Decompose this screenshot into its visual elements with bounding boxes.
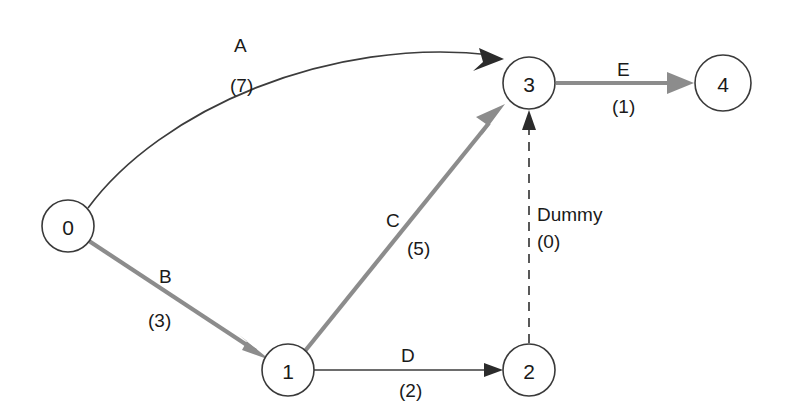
edge-A-labels: A (7) xyxy=(230,35,253,96)
node-4[interactable]: 4 xyxy=(695,55,751,111)
edge-D-arrowhead xyxy=(484,363,503,377)
edge-B-line xyxy=(89,241,256,351)
edge-C[interactable] xyxy=(305,104,505,351)
network-diagram: 0 1 2 3 4 A (7) B (3) C (5) xyxy=(0,0,788,420)
node-3[interactable]: 3 xyxy=(503,57,555,109)
edge-A-arrowhead xyxy=(473,48,504,71)
edge-A-duration: (7) xyxy=(230,75,253,96)
edge-A-line xyxy=(88,52,492,208)
edge-Dummy[interactable] xyxy=(522,110,536,343)
edge-D-labels: D (2) xyxy=(399,345,422,401)
edge-D-duration: (2) xyxy=(399,380,422,401)
edge-B-labels: B (3) xyxy=(148,266,172,331)
edge-Dummy-name: Dummy xyxy=(537,204,603,225)
edge-Dummy-arrowhead xyxy=(522,110,536,130)
node-0-label: 0 xyxy=(62,216,74,239)
edge-B-name: B xyxy=(159,266,172,287)
edge-A-name: A xyxy=(234,35,247,56)
edge-Dummy-labels: Dummy (0) xyxy=(537,204,603,252)
edge-E-labels: E (1) xyxy=(612,59,635,117)
edge-E-arrowhead xyxy=(667,72,694,94)
edge-C-name: C xyxy=(386,210,400,231)
edge-Dummy-duration: (0) xyxy=(537,231,560,252)
diagram-canvas: 0 1 2 3 4 A (7) B (3) C (5) xyxy=(0,0,788,420)
node-2[interactable]: 2 xyxy=(503,344,555,396)
node-0[interactable]: 0 xyxy=(42,200,94,252)
edge-D-name: D xyxy=(401,345,415,366)
node-1[interactable]: 1 xyxy=(262,344,314,396)
edge-E-duration: (1) xyxy=(612,96,635,117)
node-3-label: 3 xyxy=(523,73,535,96)
node-4-label: 4 xyxy=(717,73,729,96)
node-1-label: 1 xyxy=(282,360,294,383)
edge-C-labels: C (5) xyxy=(386,210,430,259)
edge-B-duration: (3) xyxy=(148,310,171,331)
edge-E-name: E xyxy=(617,59,630,80)
node-2-label: 2 xyxy=(523,360,535,383)
edge-B[interactable] xyxy=(89,241,270,360)
edge-C-line xyxy=(305,123,489,351)
edge-C-arrowhead xyxy=(476,104,505,135)
edge-C-duration: (5) xyxy=(407,238,430,259)
